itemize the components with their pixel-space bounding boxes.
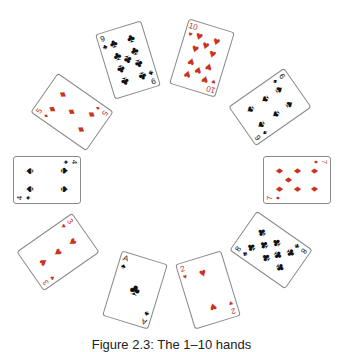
hearts-pip-icon: ♥ (206, 300, 221, 315)
diamonds-pip-icon: ♦ (291, 183, 303, 195)
card-index-br: 3♥ (41, 272, 59, 288)
diamonds-pip-icon: ♦ (74, 122, 91, 139)
rank-label: 2 (230, 306, 237, 316)
playing-card-A-of-clubs: A♣A♣♣ (102, 250, 168, 329)
card-index-tl: A♣ (118, 254, 130, 272)
spades-pip-icon: ♠ (59, 165, 71, 177)
diamonds-pip-icon: ♦ (309, 165, 321, 177)
card-index-br: 4♠ (16, 194, 32, 202)
card-index-tl: 3♥ (58, 216, 76, 232)
rank-label: 7 (265, 196, 274, 200)
playing-card-9-of-clubs: 9♣9♣♣♣♣♣♣♣♣♣♣ (95, 20, 161, 99)
hearts-pip-icon: ♥ (50, 244, 67, 261)
playing-card-6-of-spades: 6♠6♠♠♠♠♠♠♠ (228, 68, 311, 146)
card-index-tl: 2♥ (178, 264, 190, 282)
playing-card-3-of-hearts: 3♥3♥♥♥♥ (16, 213, 99, 291)
rank-label: 4 (15, 196, 24, 200)
spades-pip-icon: ♠ (282, 96, 299, 113)
playing-card-7-of-diamonds: 7♦7♦♦♦♦♦♦♦♦ (263, 156, 331, 204)
rank-label: 9 (150, 76, 157, 86)
spades-pip-icon: ♠ (241, 102, 258, 119)
hearts-pip-icon: ♥ (195, 265, 210, 280)
clubs-pip-icon: ♣ (106, 36, 121, 51)
spades-pip-icon: ♠ (267, 106, 284, 123)
clubs-pip-icon: ♣ (128, 283, 143, 298)
clubs-pip-icon: ♣ (272, 260, 289, 277)
spades-icon: ♠ (24, 194, 32, 202)
spades-pip-icon: ♠ (23, 165, 35, 177)
hearts-pip-icon: ♥ (209, 34, 224, 49)
diamonds-pip-icon: ♦ (309, 183, 321, 195)
playing-card-8-of-clubs: 8♣8♣♣♣♣♣♣♣♣♣ (229, 211, 312, 289)
spades-pip-icon: ♠ (23, 183, 35, 195)
playing-card-10-of-hearts: 10♥10♥♥♥♥♥♥♥♥♥♥♥ (169, 18, 235, 97)
diamonds-pip-icon: ♦ (54, 86, 71, 103)
rank-label: 7 (320, 160, 329, 164)
spades-pip-icon: ♠ (256, 91, 273, 108)
spades-pip-icon: ♠ (59, 183, 71, 195)
rank-label: 4 (70, 160, 79, 164)
hearts-pip-icon: ♥ (65, 233, 82, 250)
clubs-pip-icon: ♣ (124, 31, 139, 46)
diamonds-pip-icon: ♦ (64, 104, 81, 121)
figure-caption: Figure 2.3: The 1–10 hands (0, 337, 343, 352)
card-index-br: 2♥ (226, 298, 238, 316)
hearts-pip-icon: ♥ (201, 60, 216, 75)
diamonds-pip-icon: ♦ (291, 165, 303, 177)
hearts-pip-icon: ♥ (35, 254, 52, 271)
card-index-br: A♣ (139, 308, 151, 326)
playing-card-5-of-diamonds: 5♦5♦♦♦♦♦♦ (30, 73, 113, 151)
hearts-icon: ♥ (180, 272, 190, 282)
rank-label: A (140, 316, 148, 326)
playing-card-2-of-hearts: 2♥2♥♥♥ (175, 250, 241, 329)
playing-card-4-of-spades: 4♠4♠♠♠♠♠ (13, 156, 81, 204)
